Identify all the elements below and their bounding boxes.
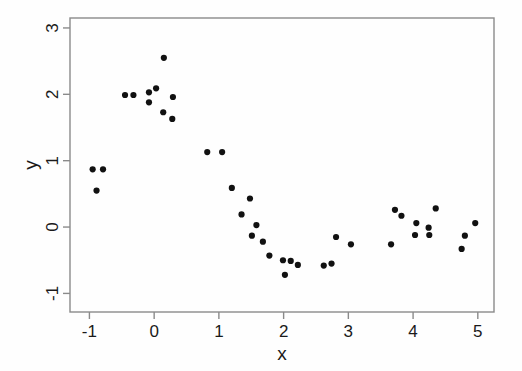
data-point bbox=[459, 246, 465, 252]
data-point bbox=[130, 92, 136, 98]
data-point bbox=[100, 166, 106, 172]
y-axis-ticks: -10123 bbox=[43, 23, 70, 301]
data-point bbox=[426, 232, 432, 238]
data-point bbox=[413, 220, 419, 226]
x-axis-title: x bbox=[277, 343, 287, 364]
data-point bbox=[392, 207, 398, 213]
data-point bbox=[433, 205, 439, 211]
data-point bbox=[169, 116, 175, 122]
data-point bbox=[146, 99, 152, 105]
data-point bbox=[161, 55, 167, 61]
data-point bbox=[260, 239, 266, 245]
y-tick-label: 1 bbox=[43, 156, 62, 165]
data-point bbox=[229, 185, 235, 191]
y-tick-label: 0 bbox=[43, 222, 62, 231]
data-point bbox=[462, 233, 468, 239]
data-point bbox=[426, 225, 432, 231]
data-point bbox=[247, 195, 253, 201]
data-point bbox=[288, 258, 294, 264]
plot-frame bbox=[70, 18, 494, 312]
data-point bbox=[398, 213, 404, 219]
data-point bbox=[333, 234, 339, 240]
x-tick-label: 0 bbox=[149, 322, 158, 341]
data-point bbox=[321, 262, 327, 268]
data-point bbox=[93, 187, 99, 193]
data-point bbox=[348, 241, 354, 247]
data-point bbox=[219, 149, 225, 155]
y-tick-label: 3 bbox=[43, 23, 62, 32]
data-point bbox=[90, 166, 96, 172]
x-tick-label: 3 bbox=[344, 322, 353, 341]
plot-canvas: -1012345 -10123 x y bbox=[0, 0, 522, 371]
plot-frame-group bbox=[70, 18, 494, 312]
x-tick-label: 1 bbox=[214, 322, 223, 341]
data-point bbox=[388, 241, 394, 247]
data-points-group bbox=[90, 55, 479, 278]
y-axis-title: y bbox=[20, 160, 41, 170]
x-tick-label: 5 bbox=[473, 322, 482, 341]
data-point bbox=[170, 94, 176, 100]
data-point bbox=[204, 149, 210, 155]
data-point bbox=[295, 262, 301, 268]
x-axis-ticks: -1012345 bbox=[82, 312, 483, 341]
data-point bbox=[146, 89, 152, 95]
scatter-plot-figure: -1012345 -10123 x y bbox=[0, 0, 522, 371]
data-point bbox=[249, 233, 255, 239]
data-point bbox=[238, 211, 244, 217]
data-point bbox=[472, 220, 478, 226]
x-tick-label: 4 bbox=[408, 322, 417, 341]
data-point bbox=[122, 92, 128, 98]
data-point bbox=[328, 260, 334, 266]
data-point bbox=[153, 85, 159, 91]
data-point bbox=[266, 252, 272, 258]
x-tick-label: 2 bbox=[279, 322, 288, 341]
data-point bbox=[282, 272, 288, 278]
data-point bbox=[412, 232, 418, 238]
y-tick-label: 2 bbox=[43, 90, 62, 99]
data-point bbox=[253, 222, 259, 228]
y-tick-label: -1 bbox=[43, 286, 62, 301]
data-point bbox=[280, 257, 286, 263]
x-tick-label: -1 bbox=[82, 322, 97, 341]
data-point bbox=[160, 109, 166, 115]
